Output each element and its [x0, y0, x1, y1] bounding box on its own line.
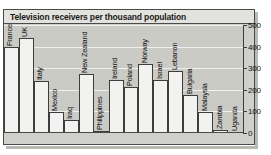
bar-label: Italy [36, 68, 45, 81]
bar-label: Ireland [110, 58, 119, 79]
bar-label: France [6, 24, 15, 46]
bar-label: Philippines [95, 96, 104, 130]
chart-title: Television receivers per thousand popula… [4, 12, 186, 22]
bar[interactable]: New Zealand [79, 74, 94, 133]
bar-slot: Italy [34, 25, 49, 133]
bar-label: Norway [140, 39, 149, 63]
chart-title-bar: Television receivers per thousand popula… [3, 9, 255, 24]
bar-label: Zambia [215, 106, 224, 129]
bar[interactable]: Israel [153, 80, 168, 133]
bar-slot: Ireland [109, 25, 124, 133]
y-axis-tick [243, 25, 247, 26]
y-axis-tick-label: 500 [248, 21, 261, 30]
bars-layer: FranceUKItalyMexicoIraqNew ZealandPhilip… [4, 25, 243, 133]
bar-label: Lebanon [170, 43, 179, 70]
y-axis-tick-label: 100 [248, 107, 261, 116]
bar-slot: Uganda [228, 25, 243, 133]
bar-slot: Poland [124, 25, 139, 133]
bar-label: UK [21, 27, 30, 37]
bar-label: Iraq [65, 107, 74, 119]
bar-label: Bulgaria [185, 69, 194, 95]
y-axis-tick-label: 0 [248, 129, 252, 138]
bar[interactable]: Poland [124, 87, 139, 133]
bar-label: Mexico [50, 89, 59, 111]
bar-label: Poland [125, 64, 134, 86]
bar-label: New Zealand [80, 31, 89, 72]
bar-slot: Philippines [94, 25, 109, 133]
bar[interactable]: Malaysia [198, 112, 213, 133]
bar-slot: Zambia [213, 25, 228, 133]
panel-drop-shadow-bottom [6, 146, 258, 149]
bar[interactable]: Ireland [109, 80, 124, 133]
y-axis-tick-label: 300 [248, 64, 261, 73]
bar-slot: New Zealand [79, 25, 94, 133]
y-axis-tick [243, 111, 247, 112]
bar[interactable]: Bulgaria [183, 95, 198, 133]
bar-slot: Bulgaria [183, 25, 198, 133]
bar-slot: Mexico [49, 25, 64, 133]
bar-slot: Lebanon [168, 25, 183, 133]
bar-label: Uganda [230, 106, 239, 131]
y-axis-tick-label: 400 [248, 42, 261, 51]
y-axis: 0100200300400500 [243, 25, 271, 134]
bar-label: Malaysia [200, 84, 209, 112]
bar[interactable]: Norway [138, 64, 153, 133]
bar-slot: Iraq [64, 25, 79, 133]
bar[interactable]: Italy [34, 81, 49, 133]
bar-slot: Norway [138, 25, 153, 133]
bar[interactable]: UK [19, 38, 34, 133]
axis-baseline [4, 132, 243, 133]
y-axis-tick [243, 68, 247, 69]
y-axis-tick [243, 47, 247, 48]
y-axis-line [243, 25, 244, 133]
bar-slot: Malaysia [198, 25, 213, 133]
bar-slot: UK [19, 25, 34, 133]
y-axis-tick [243, 90, 247, 91]
y-axis-tick [243, 133, 247, 134]
bar[interactable]: Mexico [49, 112, 64, 133]
bar[interactable]: Lebanon [168, 71, 183, 133]
bar[interactable]: France [4, 47, 19, 133]
bar-slot: France [4, 25, 19, 133]
plot-area: FranceUKItalyMexicoIraqNew ZealandPhilip… [4, 25, 243, 133]
y-axis-tick-label: 200 [248, 85, 261, 94]
bar-label: Israel [155, 62, 164, 79]
bar-slot: Israel [153, 25, 168, 133]
chart-figure: Television receivers per thousand popula… [0, 0, 271, 155]
